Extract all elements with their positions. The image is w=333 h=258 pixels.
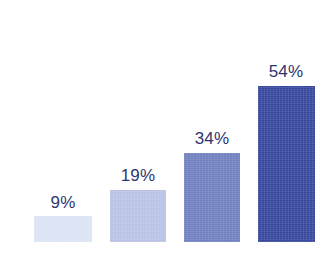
bar-group-2 [110,190,166,242]
bar-group-3 [184,153,240,242]
bar-label-2: 19% [98,167,178,184]
bar-3[interactable] [184,153,240,242]
bar-label-1: 9% [23,194,103,211]
bar-label-3: 34% [172,130,252,147]
bar-4[interactable] [258,86,315,242]
bar-chart: 9% 19% 34% 54% [0,0,333,258]
bar-2[interactable] [110,190,166,242]
bar-group-4 [258,86,315,242]
bar-1[interactable] [34,216,92,242]
bar-group-1 [34,216,92,242]
plot-area: 9% 19% 34% 54% [0,0,333,258]
bar-label-4: 54% [246,63,326,80]
